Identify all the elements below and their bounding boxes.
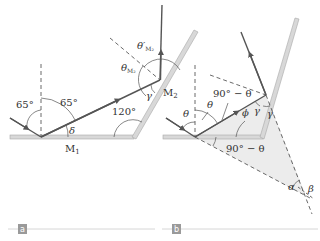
label-incident-angle: 65° [16, 99, 34, 110]
label-120: 120° [112, 106, 136, 117]
label-theta-m2: θM₂ [121, 62, 136, 74]
label-gamma-1: γ [254, 105, 260, 116]
panel-tag-b: b [162, 224, 318, 234]
label-theta-prime-m2: θ′M₂ [137, 40, 154, 52]
arc-65-left [27, 110, 41, 128]
label-90-minus-theta-bottom: 90° − θ [226, 143, 264, 154]
label-90-minus-theta-top: 90° − θ [213, 88, 251, 99]
panel-a: 65° 65° δ M1 120° γ M2 θM₂ θ′M₂ [10, 5, 198, 156]
label-delta: δ [69, 125, 75, 136]
label-alpha: α [288, 181, 295, 192]
arc-theta-right [195, 110, 218, 124]
label-gamma-2: γ [267, 108, 273, 119]
mirror-m2-b [260, 18, 299, 139]
panel-label-a: a [20, 225, 25, 234]
label-mirror-m2: M2 [163, 87, 178, 100]
label-beta: β [307, 183, 314, 194]
arc-theta-left [182, 122, 195, 129]
panel-label-b: b [174, 225, 179, 234]
label-gamma: γ [146, 90, 152, 101]
label-theta-right: θ [207, 99, 213, 110]
label-phi: ϕ [242, 107, 249, 118]
mirror-m1-b [163, 135, 263, 139]
label-mirror-m1: M1 [65, 143, 80, 156]
reflection-diagram: 65° 65° δ M1 120° γ M2 θM₂ θ′M₂ [0, 0, 320, 241]
label-reflected-angle: 65° [60, 97, 78, 108]
panel-tag-a: a [8, 224, 155, 234]
arc-theta-m2 [138, 66, 146, 96]
label-theta-left: θ [183, 108, 189, 119]
